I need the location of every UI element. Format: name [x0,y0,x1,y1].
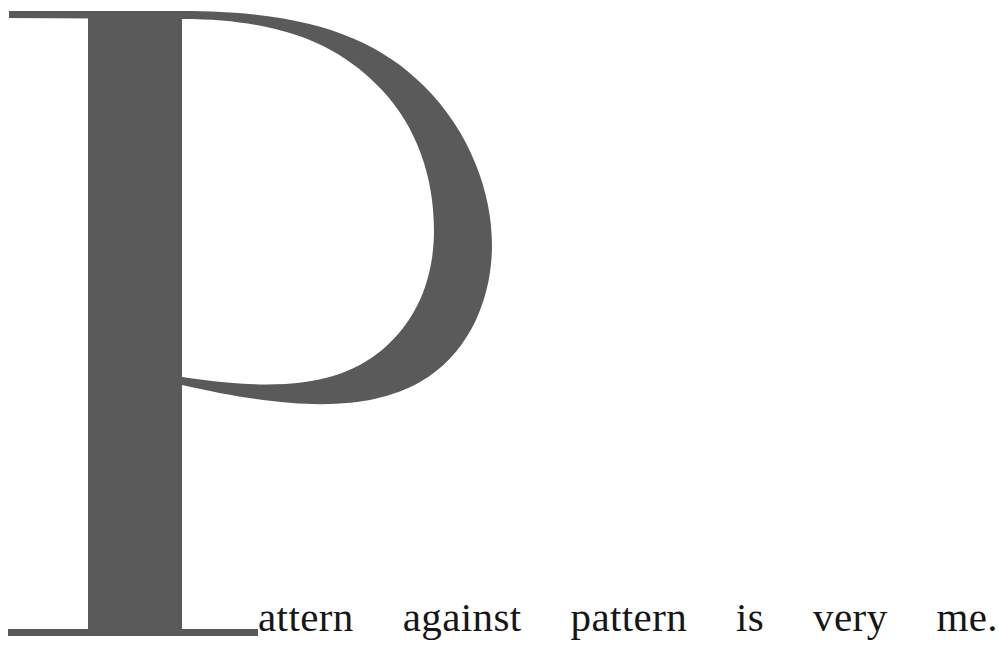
quote-word-5: me. [936,592,998,642]
quote-word-4: very [813,592,887,642]
quote-word-0: attern [258,592,354,642]
quote-text-line: attern against pattern is very me. [258,592,998,644]
quote-word-1: against [403,592,522,642]
drop-cap-p [0,0,520,649]
drop-cap-glyph-icon [0,0,520,649]
quote-word-2: pattern [570,592,687,642]
pull-quote-page: attern against pattern is very me. [0,0,999,649]
quote-word-3: is [736,592,764,642]
